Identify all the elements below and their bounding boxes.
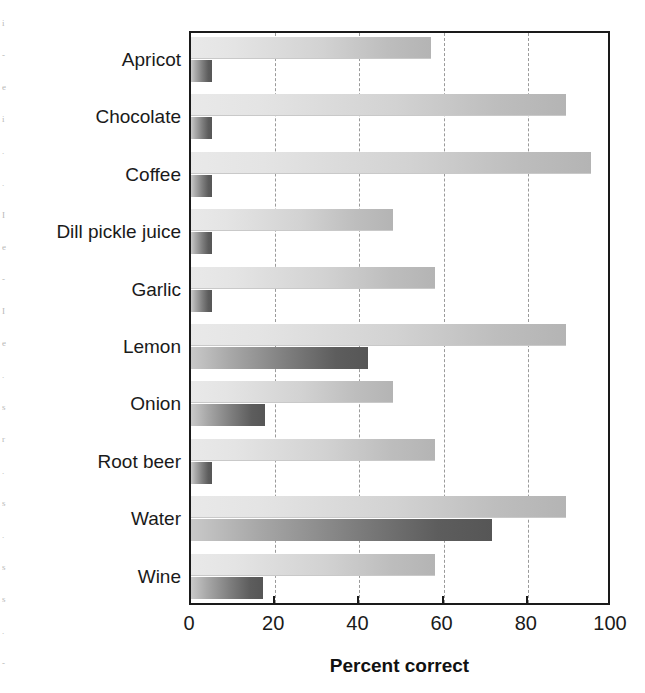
bar-group [191, 554, 608, 603]
y-axis-tick-labels: ApricotChocolateCoffeeDill pickle juiceG… [0, 31, 181, 605]
bar-light [191, 496, 566, 518]
bar-dark [191, 175, 212, 197]
bar-group [191, 324, 608, 381]
bar-light [191, 324, 566, 346]
bar-group [191, 496, 608, 553]
bar-light [191, 37, 431, 59]
bar-light [191, 209, 393, 231]
y-tick-label: Coffee [1, 164, 181, 186]
x-tick-80 [526, 596, 528, 605]
x-tick-label-40: 40 [346, 612, 368, 635]
y-tick-label: Garlic [1, 279, 181, 301]
bar-group [191, 267, 608, 324]
bar-group [191, 37, 608, 94]
x-axis-title: Percent correct [189, 655, 610, 677]
x-tick-40 [357, 596, 359, 605]
x-tick-label-60: 60 [430, 612, 452, 635]
y-tick-label: Chocolate [1, 106, 181, 128]
bar-dark [191, 290, 212, 312]
bar-light [191, 94, 566, 116]
bar-group [191, 94, 608, 151]
x-tick-60 [442, 596, 444, 605]
bar-dark [191, 462, 212, 484]
plot-area [189, 31, 610, 605]
bar-dark [191, 60, 212, 82]
bar-dark [191, 519, 492, 541]
bar-group [191, 209, 608, 266]
bar-light [191, 439, 435, 461]
bar-light [191, 267, 435, 289]
bar-light [191, 152, 591, 174]
bar-light [191, 381, 393, 403]
bar-chart-figure: ApricotChocolateCoffeeDill pickle juiceG… [0, 0, 645, 693]
y-tick-label: Wine [1, 566, 181, 588]
bar-dark [191, 117, 212, 139]
x-tick-label-20: 20 [262, 612, 284, 635]
bar-dark [191, 347, 368, 369]
x-tick-label-80: 80 [515, 612, 537, 635]
bar-group [191, 152, 608, 209]
y-tick-label: Root beer [1, 451, 181, 473]
y-tick-label: Water [1, 508, 181, 530]
bar-dark [191, 577, 263, 599]
plot-inner [191, 33, 608, 603]
bar-group [191, 381, 608, 438]
bar-dark [191, 232, 212, 254]
y-tick-label: Dill pickle juice [1, 221, 181, 243]
bar-group [191, 439, 608, 496]
x-tick-label-100: 100 [593, 612, 626, 635]
y-tick-label: Lemon [1, 336, 181, 358]
bar-light [191, 554, 435, 576]
y-tick-label: Onion [1, 393, 181, 415]
x-tick-label-0: 0 [183, 612, 194, 635]
x-tick-20 [273, 596, 275, 605]
y-tick-label: Apricot [1, 49, 181, 71]
bar-dark [191, 404, 265, 426]
